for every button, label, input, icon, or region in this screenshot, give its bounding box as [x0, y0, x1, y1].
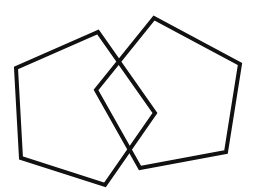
right-pentagon [96, 18, 240, 168]
left-pentagon [16, 32, 155, 185]
diagram-canvas [0, 0, 254, 195]
overlapping-pentagons-diagram [0, 0, 254, 195]
